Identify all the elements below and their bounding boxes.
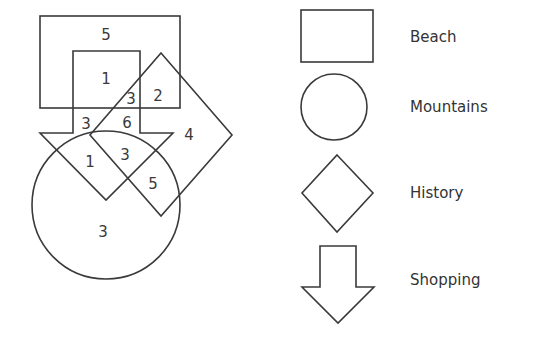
legend-rectangle-icon (301, 10, 373, 62)
region-history-mountains: 5 (148, 175, 158, 193)
region-shopping-history: 6 (122, 114, 132, 132)
region-beach-shopping-history: 3 (126, 90, 136, 108)
region-beach-shopping: 1 (101, 70, 111, 88)
history-diamond (90, 53, 232, 216)
region-shopping-mountains: 1 (85, 153, 95, 171)
legend-arrow-icon (302, 246, 374, 323)
region-shopping-history-mountains: 3 (120, 146, 130, 164)
region-mountains-only: 3 (98, 223, 108, 241)
region-beach-history: 2 (153, 87, 163, 105)
legend-label-history: History (410, 184, 463, 202)
region-shopping-only: 3 (81, 115, 91, 133)
legend-circle-icon (301, 74, 367, 140)
legend-label-shopping: Shopping (410, 271, 480, 289)
diagram-canvas: 5 1 3 2 3 6 4 1 3 5 3 (0, 0, 543, 349)
legend-diamond-icon (302, 155, 373, 232)
region-beach-only: 5 (101, 26, 111, 44)
region-history-only: 4 (184, 126, 194, 144)
legend-label-beach: Beach (410, 28, 456, 46)
legend-label-mountains: Mountains (410, 98, 488, 116)
